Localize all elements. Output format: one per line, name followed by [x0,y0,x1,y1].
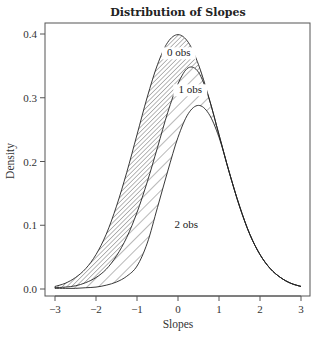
x-tick-label: 1 [216,303,222,315]
slopes-density-chart: Distribution of Slopes 0 obs 1 obs 2 obs… [0,0,318,340]
y-axis-label: Density [4,143,17,179]
y-tick-label: 0.4 [23,28,37,40]
x-axis-label: Slopes [163,318,194,331]
y-tick-label: 0.3 [23,92,37,104]
x-tick-label: 0 [175,303,181,315]
x-tick-label: 3 [298,303,304,315]
x-tick-label: 2 [257,303,263,315]
chart-title: Distribution of Slopes [110,6,245,19]
x-tick-label: −1 [131,303,143,315]
hatch-region-1-2 [55,67,301,288]
x-tick-label: −2 [90,303,102,315]
x-axis: −3−2−10123 [49,296,304,315]
y-tick-label: 0.2 [23,156,37,168]
hatch-region-0-1 [55,35,301,288]
label-0-obs: 0 obs [167,46,191,58]
label-2-obs: 2 obs [174,218,198,230]
label-1-obs: 1 obs [179,83,203,95]
y-tick-label: 0.0 [23,283,37,295]
shaded-regions [55,35,301,289]
y-tick-label: 0.1 [23,219,37,231]
y-axis: 0.00.10.20.30.4 [23,28,45,295]
x-tick-label: −3 [49,303,61,315]
